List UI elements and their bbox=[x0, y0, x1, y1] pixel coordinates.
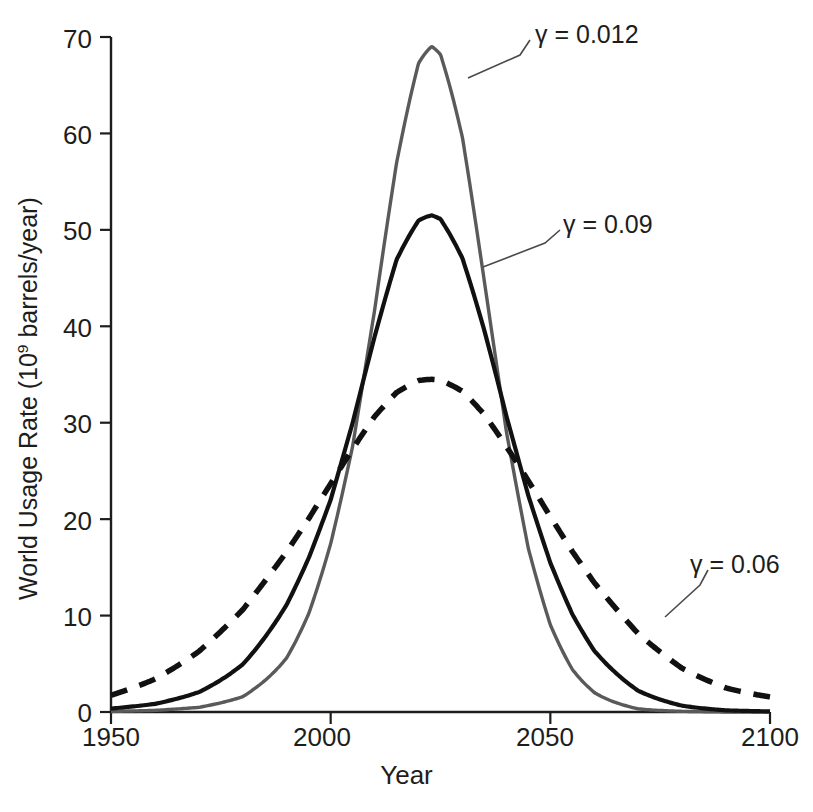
chart-plot-area bbox=[0, 0, 813, 812]
y-axis-title: World Usage Rate (109 barrels/year) bbox=[14, 197, 43, 600]
y-axis-ticks bbox=[100, 37, 111, 712]
y-axis-title-prefix: World Usage Rate (10 bbox=[14, 353, 42, 600]
annotation-gamma-006: γ = 0.06 bbox=[690, 550, 780, 579]
y-tick-label-10: 10 bbox=[12, 602, 92, 633]
annotation-gamma-0012: γ = 0.012 bbox=[535, 20, 639, 49]
x-tick-label-2100: 2100 bbox=[710, 722, 813, 753]
leader-line-gamma-009 bbox=[483, 230, 560, 267]
annotation-gamma-009: γ = 0.09 bbox=[563, 210, 653, 239]
x-tick-label-2000: 2000 bbox=[262, 722, 382, 753]
y-axis-title-suffix: barrels/year) bbox=[14, 197, 42, 344]
y-tick-label-70: 70 bbox=[12, 24, 92, 55]
x-axis-ticks bbox=[111, 712, 770, 724]
annotation-leader-lines bbox=[468, 40, 708, 617]
curve--0-06 bbox=[111, 379, 770, 697]
y-tick-label-60: 60 bbox=[12, 120, 92, 151]
leader-line-gamma-0012 bbox=[468, 40, 530, 78]
curve--0-09 bbox=[111, 215, 770, 711]
y-axis-title-exponent: 9 bbox=[14, 345, 31, 354]
x-tick-label-2050: 2050 bbox=[485, 722, 605, 753]
x-tick-label-1950: 1950 bbox=[51, 722, 171, 753]
x-axis-title: Year bbox=[0, 760, 813, 791]
chart-figure: 70 60 50 40 30 20 10 0 1950 2000 2050 21… bbox=[0, 0, 813, 812]
